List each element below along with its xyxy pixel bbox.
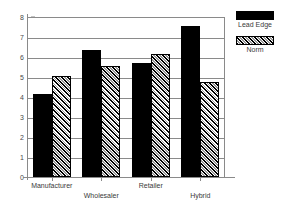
y-axis-tick-label: 7 xyxy=(20,34,24,41)
x-axis-tick-mark xyxy=(101,177,102,181)
bar-norm-manufacturer xyxy=(52,76,71,177)
legend-label-norm: Norm xyxy=(231,46,279,54)
x-axis-tick-mark xyxy=(200,177,201,181)
bar-lead-edge-manufacturer xyxy=(33,94,52,177)
y-axis-tick-label: 2 xyxy=(20,134,24,141)
legend-item-norm: Norm xyxy=(231,36,279,54)
bar-chart: 012345678 ManufacturerWholesalerRetailer… xyxy=(0,0,288,210)
chart-legend: Lead Edge Norm xyxy=(231,11,279,61)
x-axis-tick-mark xyxy=(151,177,152,181)
y-axis-ticks: 012345678 xyxy=(8,0,24,210)
legend-label-lead-edge: Lead Edge xyxy=(231,21,279,29)
y-axis-tick-label: 4 xyxy=(20,94,24,101)
bar-norm-hybrid xyxy=(200,82,219,177)
y-axis-tick-label: 6 xyxy=(20,54,24,61)
bar-lead-edge-hybrid xyxy=(181,26,200,177)
bar-norm-wholesaler xyxy=(101,66,120,177)
y-axis-tick-label: 5 xyxy=(20,74,24,81)
bar-lead-edge-wholesaler xyxy=(82,50,101,177)
x-axis-label-manufacturer: Manufacturer xyxy=(31,182,72,190)
bar-norm-retailer xyxy=(151,54,170,177)
y-axis-tick-label: 1 xyxy=(20,154,24,161)
legend-item-lead-edge: Lead Edge xyxy=(231,11,279,29)
x-axis-label-retailer: Retailer xyxy=(139,182,163,190)
y-axis-tick-label: 3 xyxy=(20,114,24,121)
legend-swatch-norm xyxy=(236,36,274,45)
x-axis-line xyxy=(23,177,235,178)
bar-lead-edge-retailer xyxy=(132,63,151,177)
x-axis-label-wholesaler: Wholesaler xyxy=(84,192,119,200)
x-axis-tick-mark xyxy=(52,177,53,181)
legend-swatch-lead-edge xyxy=(236,11,274,20)
bars-layer xyxy=(27,17,225,177)
y-axis-tick-label: 8 xyxy=(20,14,24,21)
x-axis-label-hybrid: Hybrid xyxy=(190,192,210,200)
